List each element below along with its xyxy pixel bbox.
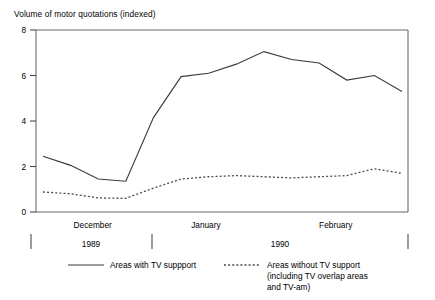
- series-line-areas-with-tv-support: [43, 52, 402, 182]
- legend-label-areas-with-tv-support: Areas with TV suppport: [110, 260, 196, 271]
- y-tick-marks: [30, 30, 36, 212]
- x-category-label-february: February: [319, 220, 353, 230]
- y-tick-label-8: 8: [21, 25, 26, 35]
- legend-label-areas-without-tv-support-line3: and TV-am): [267, 282, 310, 293]
- legend-label-areas-without-tv-support-line2: (including TV overlap areas: [267, 271, 368, 282]
- y-tick-label-4: 4: [21, 116, 26, 126]
- y-tick-label-0: 0: [21, 207, 26, 217]
- year-label-1990: 1990: [271, 239, 290, 249]
- x-category-label-december: December: [74, 220, 113, 230]
- chart-container: Volume of motor quotations (indexed) 8 6…: [0, 0, 435, 300]
- y-tick-label-6: 6: [21, 71, 26, 81]
- x-category-label-january: January: [191, 220, 221, 230]
- year-label-1989: 1989: [82, 239, 101, 249]
- series-line-areas-without-tv-support: [43, 169, 402, 199]
- chart-plot-svg: 8 6 4 2 0 December January February 1989…: [0, 0, 435, 300]
- y-tick-label-2: 2: [21, 162, 26, 172]
- legend-label-areas-without-tv-support-line1: Areas without TV support: [267, 260, 360, 271]
